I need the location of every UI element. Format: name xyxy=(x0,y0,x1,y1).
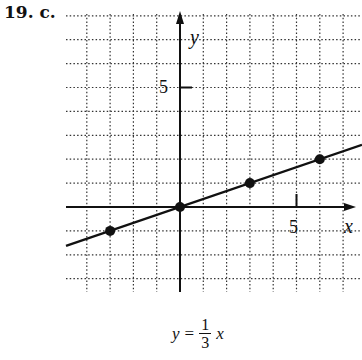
equation-lhs: y xyxy=(172,324,180,344)
x-tick-label-5: 5 xyxy=(289,217,298,237)
x-axis-label: x xyxy=(343,215,353,237)
dotted-grid xyxy=(66,14,362,292)
data-point xyxy=(315,154,325,164)
equation: y = 1 3 x xyxy=(172,316,224,351)
equation-rhs-var: x xyxy=(216,324,224,344)
y-tick-label-5: 5 xyxy=(159,77,168,97)
y-axis-label: y xyxy=(188,26,199,49)
data-point xyxy=(245,178,255,188)
fraction: 1 3 xyxy=(199,316,211,351)
data-point xyxy=(175,202,185,212)
fraction-numerator: 1 xyxy=(199,316,211,334)
coordinate-plane: y x 5 5 xyxy=(0,0,362,310)
data-point xyxy=(105,226,115,236)
fraction-denominator: 3 xyxy=(201,334,209,351)
equation-equals: = xyxy=(185,324,195,344)
